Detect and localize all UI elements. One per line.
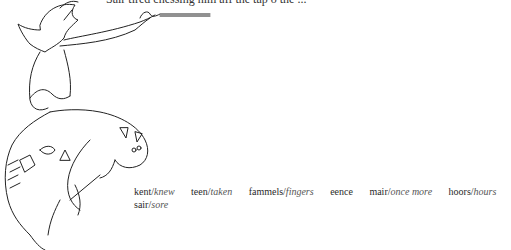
- glossary-entry: kent/knew: [134, 185, 175, 198]
- glossary-entry: sair/sore: [134, 198, 168, 211]
- glossary-entry: eence: [330, 185, 353, 198]
- glossary: kent/knew teen/taken fammels/fingers een…: [134, 185, 511, 211]
- goblin-illustration: [0, 0, 220, 250]
- glossary-entry: hoors/hours: [449, 185, 497, 198]
- glossary-row: sair/sore: [134, 198, 511, 211]
- glossary-entry: fammels/fingers: [249, 185, 314, 198]
- glossary-entry: teen/taken: [191, 185, 232, 198]
- glossary-entry: mair/once more: [369, 185, 432, 198]
- glossary-row: kent/knew teen/taken fammels/fingers een…: [134, 185, 511, 198]
